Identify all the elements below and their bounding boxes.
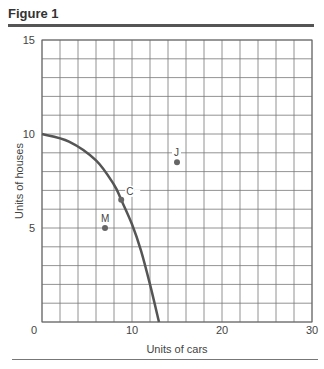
point-m [102,225,108,231]
grid [42,40,312,322]
x-tick-label: 20 [216,324,228,336]
point-j [174,159,180,165]
y-tick-label: 15 [23,34,35,46]
point-label-c: C [126,186,133,197]
x-axis-label: Units of cars [146,343,208,355]
y-axis-label: Units of houses [13,143,25,219]
x-tick-label: 30 [306,324,318,336]
plot-border [42,40,312,322]
data-points: CMJ [100,147,181,231]
x-tick-label: 0 [31,324,37,336]
y-tick-label: 5 [29,222,35,234]
x-tick-label: 10 [126,324,138,336]
point-label-m: M [101,213,109,224]
bottom-rule [12,359,318,360]
y-tick-label: 10 [23,128,35,140]
point-c [118,197,124,203]
point-label-j: J [174,147,179,158]
x-ticks: 0102030 [31,324,318,336]
chart: CMJ 0102030 51015 Units of cars Units of… [0,0,324,369]
